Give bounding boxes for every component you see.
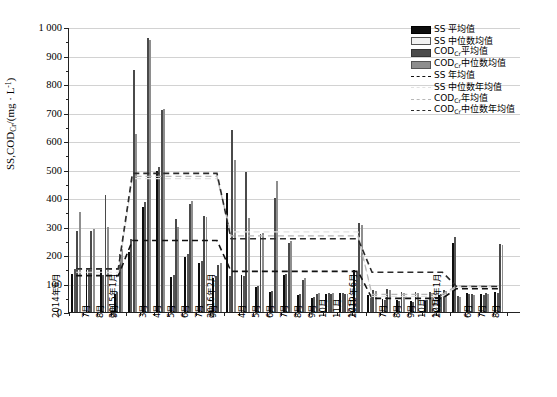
x-axis-label-cell: 12月 <box>351 316 365 394</box>
x-axis-tick-label: 2019年6月 <box>349 273 358 318</box>
x-axis-label-cell: 5月 <box>252 316 266 394</box>
chart-figure: SS,CODCr/(mg · L-1) 01002003004005006007… <box>0 0 557 397</box>
x-axis-tick-label: 2014年6月 <box>53 273 62 318</box>
x-axis-tick-label: 7月 <box>195 304 204 318</box>
x-axis-tick-label: 6月 <box>463 304 472 318</box>
y-axis-tick-label: 600 <box>46 137 62 148</box>
x-axis-label-cell: 2019年6月 <box>365 316 379 394</box>
legend-label-suffix: 中位数年均值 <box>461 104 515 114</box>
legend-label-prefix: COD <box>434 58 454 68</box>
x-axis-tick-label: 10月 <box>418 298 427 318</box>
x-axis-label-cell: 8月 <box>294 316 308 394</box>
x-axis-tick-label: 3月 <box>138 304 147 318</box>
y-axis-tick-label: 800 <box>46 80 62 91</box>
x-axis-tick-label: 8月 <box>492 304 501 318</box>
x-axis-label-cell: 4月 <box>238 316 252 394</box>
legend-item[interactable]: SS 年均值 <box>411 70 551 82</box>
x-axis-label-cell: 5月 <box>167 316 181 394</box>
x-axis-label-cell: 7月 <box>379 316 393 394</box>
legend-label-prefix: COD <box>434 93 454 103</box>
x-axis-label-cell: 6月 <box>464 316 478 394</box>
y-axis-tick-label: 1 000 <box>38 23 62 34</box>
x-axis-label-cell: 3月 <box>139 316 153 394</box>
legend-item-label: SS 平均值 <box>434 24 475 36</box>
x-axis-label-cell: 9月 <box>308 316 322 394</box>
reference-line-cod_median_year <box>76 173 499 286</box>
x-axis-label-cell: 6月 <box>266 316 280 394</box>
legend-line-icon <box>411 84 431 92</box>
x-axis-label-cell: 7月 <box>195 316 209 394</box>
legend-item[interactable]: SS 中位数年均值 <box>411 82 551 94</box>
x-axis-label-cell-spacer <box>506 316 520 394</box>
y-axis-title-subscript: Cr <box>9 124 18 131</box>
y-axis-tick-label: 700 <box>46 108 62 119</box>
x-axis-label-cell: 7月 <box>280 316 294 394</box>
legend-item-label: SS 年均值 <box>434 70 475 82</box>
legend-line-icon <box>411 107 431 115</box>
x-axis-tick-label: 10月 <box>319 298 328 318</box>
legend-line-icon <box>411 95 431 103</box>
x-axis-label-cell: 12月 <box>435 316 449 394</box>
legend-label-suffix: 中位数均值 <box>461 58 506 68</box>
legend-swatch-icon <box>411 61 431 69</box>
x-axis-tick-label: 5月 <box>251 304 260 318</box>
x-axis-tick-label: 7月 <box>280 304 289 318</box>
legend-swatch-icon <box>411 37 431 45</box>
x-axis-tick-label: 8月 <box>393 304 402 318</box>
x-axis-label-cell: 8月 <box>393 316 407 394</box>
legend-label-prefix: COD <box>434 104 454 114</box>
y-axis-tick-label: 900 <box>46 51 62 62</box>
x-axis-label-cell: 9月 <box>110 316 124 394</box>
y-axis-title-unit: /(mg · L <box>4 88 16 125</box>
x-axis-label-cell: 8月 <box>492 316 506 394</box>
x-axis-tick-label: 4月 <box>237 304 246 318</box>
x-axis-label-cell: 2016年2月 <box>223 316 237 394</box>
x-axis-label-cell: 6月 <box>181 316 195 394</box>
legend-item[interactable]: CODCr中位数年均值 <box>411 105 551 117</box>
y-axis-title-close: ) <box>4 78 16 82</box>
legend-line-icon <box>411 72 431 80</box>
legend-label-suffix: 平均值 <box>461 46 488 56</box>
y-axis-tick-label: 400 <box>46 194 62 205</box>
x-axis-tick-label: 6月 <box>266 304 275 318</box>
x-axis-tick-label: 4月 <box>153 304 162 318</box>
x-axis-label-cell: 8月 <box>96 316 110 394</box>
x-axis-label-cell: 11月 <box>336 316 350 394</box>
y-axis-title-exponent: -1 <box>4 81 13 87</box>
x-axis-tick-label: 8月 <box>294 304 303 318</box>
x-axis-tick-label: 9月 <box>308 304 317 318</box>
x-axis-tick-label: 7月 <box>379 304 388 318</box>
legend-label-prefix: COD <box>434 46 454 56</box>
y-axis-title: SS,CODCr/(mg · L-1) <box>4 78 18 170</box>
legend-item-label: CODCr中位数年均值 <box>434 104 515 117</box>
x-axis-tick-label: 9月 <box>407 304 416 318</box>
x-axis-tick-label: 6月 <box>181 304 190 318</box>
x-axis-tick-label: 2016年2月 <box>208 273 217 318</box>
x-axis-label-cell: 10月 <box>421 316 435 394</box>
x-axis-tick-label: 5月 <box>167 304 176 318</box>
legend-swatch-icon <box>411 49 431 57</box>
y-axis-title-main: SS,COD <box>4 132 16 170</box>
x-axis-label-cell: 9月 <box>407 316 421 394</box>
legend-item[interactable]: SS 平均值 <box>411 24 551 36</box>
x-axis-tick-label: 7月 <box>477 304 486 318</box>
x-axis-label-cell: 9月 <box>209 316 223 394</box>
y-axis-tick-label: 500 <box>46 165 62 176</box>
x-axis-tick-label: 7月 <box>82 304 91 318</box>
x-axis-label-cell: 7月 <box>82 316 96 394</box>
x-axis-tick-label: 2020年1月 <box>434 273 443 318</box>
x-axis-label-cell: 2020年1月 <box>449 316 463 394</box>
y-axis-tick-label: 300 <box>46 222 62 233</box>
x-axis-label-cell: 7月 <box>478 316 492 394</box>
x-axis-label-cell: 2015年1月 <box>125 316 139 394</box>
x-axis-tick-label: 8月 <box>96 304 105 318</box>
x-axis-tick-label: 2015年1月 <box>109 273 118 318</box>
x-axis-labels: 2014年6月7月8月9月2015年1月3月4月5月6月7月9月2016年2月4… <box>68 316 520 394</box>
legend-item-label: SS 中位数年均值 <box>434 82 502 94</box>
x-axis-label-cell: 10月 <box>322 316 336 394</box>
legend-item[interactable]: CODCr中位数均值 <box>411 59 551 71</box>
x-axis-label-cell: 4月 <box>153 316 167 394</box>
x-axis-tick-label: 11月 <box>334 298 343 318</box>
legend-swatch-icon <box>411 26 431 34</box>
y-axis-tick-label: 200 <box>46 251 62 262</box>
